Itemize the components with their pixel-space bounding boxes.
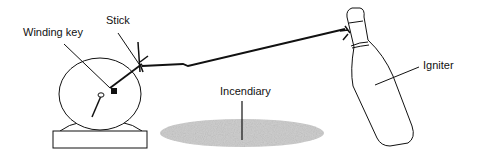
stick-label: Stick [106,15,130,26]
bottle [347,8,413,146]
igniter-label: Igniter [423,60,454,71]
stick-knot [138,42,148,72]
winding-key-label: Winding key [23,27,83,38]
incendiary-label: Incendiary [220,86,271,97]
clock-pivot [98,93,104,97]
diagram-canvas [0,0,477,158]
string [142,29,345,66]
stick-leader-line [118,33,139,64]
winding-key-icon [111,88,117,94]
bottle-knot [340,26,350,40]
